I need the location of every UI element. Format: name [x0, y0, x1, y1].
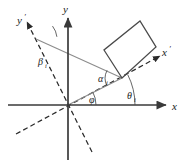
x-prime-axis-prime: ′	[169, 45, 171, 54]
arc-beta	[53, 26, 57, 37]
y-prime-axis-prime: ′	[24, 13, 26, 22]
x-prime-axis-label: x	[161, 46, 167, 58]
angle-beta-label: β	[37, 56, 43, 67]
x-axis-label: x	[171, 100, 177, 112]
inclined-rectangle	[104, 21, 156, 78]
angle-beta-subscript: i	[45, 62, 47, 69]
construction-rays-group	[36, 39, 122, 105]
figure-canvas: x y x ′ y ′ α i β i θ i φ	[0, 0, 185, 165]
angle-phi-label: φ	[89, 94, 95, 105]
y-prime-axis-line	[27, 22, 92, 152]
coordinate-diagram: x y x ′ y ′ α i β i θ i φ	[0, 0, 185, 165]
angle-theta-subscript: i	[134, 96, 136, 103]
angle-alpha-subscript: i	[106, 79, 108, 86]
angle-theta-label: θ	[127, 90, 132, 101]
angle-alpha-label: α	[98, 73, 104, 84]
dashed-axes-group	[16, 22, 160, 152]
y-prime-axis-label: y	[16, 14, 22, 26]
angle-labels-group: α i β i θ i φ	[37, 56, 136, 105]
rectangle-outline	[104, 21, 156, 78]
ray-theta-line	[68, 78, 122, 105]
y-axis-label: y	[62, 3, 68, 15]
solid-axes-group	[8, 18, 166, 160]
